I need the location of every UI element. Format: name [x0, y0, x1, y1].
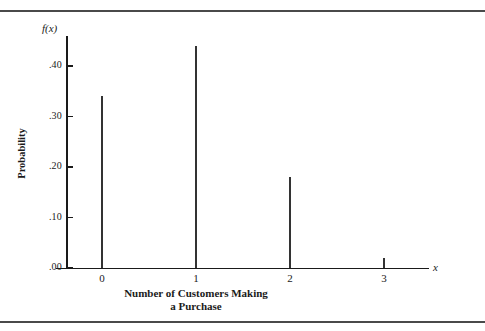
- y-axis-line: [66, 36, 68, 269]
- x-axis-line: [56, 268, 429, 270]
- y-axis-tick: [67, 217, 73, 218]
- x-axis-title-line-2: a Purchase: [96, 300, 296, 313]
- x-axis-symbol-label: x: [433, 261, 438, 273]
- y-axis-tick: [67, 166, 73, 167]
- y-axis-symbol-label: f(x): [42, 22, 57, 34]
- y-axis-tick-label: .20: [28, 160, 62, 171]
- x-axis-title-line-1: Number of Customers Making: [96, 287, 296, 300]
- chart-plot-area: .40.30.20.10.00 0123 f(x) x Probability …: [0, 0, 485, 331]
- y-axis-tick-label: .00: [28, 261, 62, 272]
- x-axis-tick-label: 0: [82, 272, 122, 284]
- y-axis-tick: [67, 267, 73, 268]
- x-axis-title: Number of Customers Making a Purchase: [96, 287, 296, 313]
- x-axis-tick-label: 3: [364, 272, 404, 284]
- x-axis-tick-label: 1: [176, 272, 216, 284]
- y-axis-tick-label: .10: [28, 211, 62, 222]
- spike-bar: [383, 258, 385, 268]
- x-axis-tick-label: 2: [270, 272, 310, 284]
- y-axis-title: Probability: [16, 109, 27, 199]
- figure-container: .40.30.20.10.00 0123 f(x) x Probability …: [0, 0, 485, 331]
- spike-bar: [195, 46, 197, 268]
- spike-bar: [101, 96, 103, 268]
- y-axis-tick: [67, 65, 73, 66]
- spike-bar: [289, 177, 291, 268]
- y-axis-tick-label: .30: [28, 110, 62, 121]
- y-axis-tick-label: .40: [28, 59, 62, 70]
- y-axis-tick: [67, 116, 73, 117]
